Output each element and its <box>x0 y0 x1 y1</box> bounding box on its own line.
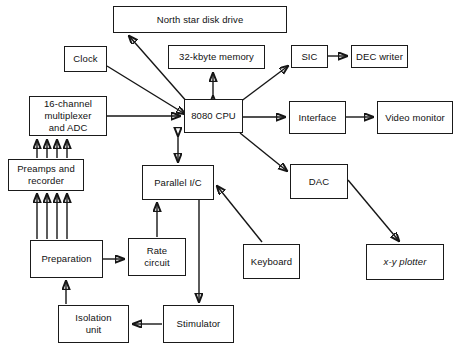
node-label: Preamps and recorder <box>17 163 75 187</box>
node-clock[interactable]: Clock <box>64 46 107 72</box>
node-dac[interactable]: DAC <box>290 164 348 199</box>
node-keyboard[interactable]: Keyboard <box>243 244 300 279</box>
node-dec-writer[interactable]: DEC writer <box>351 45 408 68</box>
node-parallel-io[interactable]: Parallel I/C <box>142 165 214 200</box>
node-preparation[interactable]: Preparation <box>30 240 103 278</box>
node-label: Keyboard <box>251 256 292 268</box>
node-north-star-disk-drive[interactable]: North star disk drive <box>113 6 287 33</box>
node-label: DAC <box>309 176 329 188</box>
node-label: Preparation <box>41 253 91 265</box>
node-label: x-y plotter <box>384 256 427 268</box>
node-16-channel-multiplexer-and-adc[interactable]: 16-channel multiplexer and ADC <box>29 96 107 136</box>
node-label: 16-channel multiplexer and ADC <box>44 98 92 134</box>
node-interface[interactable]: Interface <box>289 101 346 134</box>
edge-keyboard-pio <box>217 186 262 242</box>
node-video-monitor[interactable]: Video monitor <box>377 101 453 134</box>
node-xy-plotter[interactable]: x-y plotter <box>366 244 444 280</box>
node-label: SIC <box>301 51 317 63</box>
edge-clock-cpu <box>107 66 185 114</box>
node-rate-circuit[interactable]: Rate circuit <box>128 238 186 276</box>
node-label: Clock <box>73 53 97 65</box>
node-label: Parallel I/C <box>154 177 202 189</box>
node-8080-cpu[interactable]: 8080 CPU <box>184 99 243 133</box>
node-preamps-and-recorder[interactable]: Preamps and recorder <box>8 159 84 191</box>
node-stimulator[interactable]: Stimulator <box>163 305 234 343</box>
node-32-kbyte-memory[interactable]: 32-kbyte memory <box>168 45 265 69</box>
node-label: 32-kbyte memory <box>179 51 254 63</box>
node-label: North star disk drive <box>157 14 244 26</box>
node-label: DEC writer <box>356 51 403 63</box>
edge-cpu-sic <box>240 66 288 102</box>
node-sic[interactable]: SIC <box>291 45 328 68</box>
node-isolation-unit[interactable]: Isolation unit <box>58 305 129 343</box>
edge-cpu-dac <box>240 133 287 171</box>
node-label: Isolation unit <box>75 312 111 336</box>
node-label: 8080 CPU <box>191 110 236 122</box>
node-label: Rate circuit <box>144 245 170 269</box>
edge-dac-plotter <box>348 180 399 241</box>
node-label: Video monitor <box>385 112 445 124</box>
block-diagram: North star disk drive Clock 32-kbyte mem… <box>0 0 458 347</box>
node-label: Stimulator <box>177 318 221 330</box>
node-label: Interface <box>299 112 337 124</box>
